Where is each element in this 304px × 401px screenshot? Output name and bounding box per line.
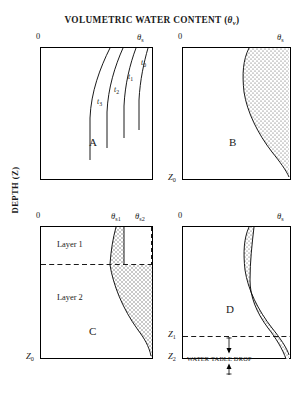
panel-d-z2-label: Z2 [168,351,176,362]
figure-root: VOLUMETRIC WATER CONTENT (θv) DEPTH (Z) … [0,0,304,401]
panel-d-letter: D [226,303,234,315]
panel-d-fill [244,227,289,359]
water-table-drop-label: WATER TABLE DROP [187,355,252,362]
panel-d-drop-arrowhead2 [227,364,232,370]
panel-d-z1-label: Z1 [168,329,176,340]
panel-d-drop-arrowhead [227,348,232,354]
panel-d-curves [0,0,304,401]
